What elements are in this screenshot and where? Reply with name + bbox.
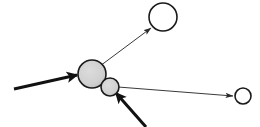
right-empty-node[interactable] bbox=[235, 88, 251, 104]
nodes-layer bbox=[78, 3, 251, 104]
diagram-svg bbox=[0, 0, 260, 127]
outgoing-edge-top[interactable] bbox=[100, 28, 151, 66]
incoming-edge-bottom[interactable] bbox=[116, 93, 146, 127]
outgoing-edge-right[interactable] bbox=[118, 87, 233, 96]
incoming-edge-left[interactable] bbox=[14, 75, 77, 89]
top-empty-node[interactable] bbox=[149, 3, 177, 31]
diagram-canvas bbox=[0, 0, 260, 127]
small-filled-node[interactable] bbox=[101, 78, 119, 96]
edges-layer bbox=[14, 28, 233, 127]
